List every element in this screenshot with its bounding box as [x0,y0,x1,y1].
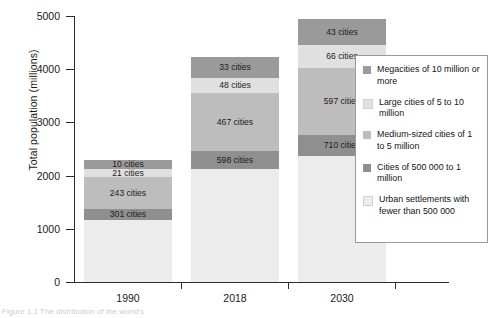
bar-segment: 10 cities [84,160,172,169]
segment-value-label: 21 cities [112,169,144,178]
y-tick-mark [66,16,74,17]
bar-segment: 598 cities [191,151,279,169]
bar-segment: 467 cities [191,93,279,151]
segment-value-label: 33 cities [219,63,251,72]
segment-value-label: 243 cities [110,189,146,198]
segment-value-label: 467 cities [217,118,253,127]
legend-label: Large cities of 5 to 10 million [379,97,480,121]
legend-swatch-icon [363,196,373,206]
segment-value-label: 66 cities [326,52,358,61]
legend-label: Urban settlements with fewer than 500 00… [379,194,480,218]
segment-value-label: 301 cities [110,210,146,219]
y-tick-label-1000: 1000 [0,223,60,235]
bar-segment [191,169,279,282]
y-tick-label-0: 0 [0,276,60,288]
y-tick-mark [66,69,74,70]
legend-item-2[interactable]: Medium-sized cities of 1 to 5 million [363,129,480,153]
bar-segment: 243 cities [84,177,172,209]
legend-swatch-icon [363,131,371,139]
y-tick-label-4000: 4000 [0,63,60,75]
legend-item-4[interactable]: Urban settlements with fewer than 500 00… [363,194,480,218]
figure-caption: Figure 1.1 The distribution of the world… [2,307,144,316]
bar-segment: 48 cities [191,78,279,93]
bar-2018: 598 cities467 cities48 cities33 cities [191,57,279,282]
y-axis-line [74,16,75,282]
legend-label: Medium-sized cities of 1 to 5 million [377,129,480,153]
y-tick-mark [66,282,74,283]
legend-label: Cities of 500 000 to 1 million [377,162,480,186]
legend-label: Megacities of 10 million or more [377,64,480,88]
x-tick-label-2030: 2030 [302,292,382,304]
segment-value-label: 598 cities [217,156,253,165]
chart-legend: Megacities of 10 million or moreLarge ci… [355,55,488,243]
legend-swatch-icon [363,66,371,74]
bar-segment: 33 cities [191,57,279,77]
segment-value-label: 10 cities [112,160,144,169]
bar-segment [84,220,172,282]
bar-segment: 21 cities [84,169,172,176]
x-axis-line [74,282,449,283]
x-tick-label-1990: 1990 [88,292,168,304]
bar-1990: 301 cities243 cities21 cities10 cities [84,160,172,282]
x-tick-mark [288,282,289,289]
y-tick-label-2000: 2000 [0,170,60,182]
x-tick-label-2018: 2018 [195,292,275,304]
legend-swatch-icon [363,99,373,109]
chart-canvas: Total population (millions) 500040003000… [0,0,493,318]
segment-value-label: 48 cities [219,81,251,90]
bar-segment: 301 cities [84,209,172,220]
legend-item-1[interactable]: Large cities of 5 to 10 million [363,97,480,121]
y-tick-label-3000: 3000 [0,116,60,128]
legend-item-0[interactable]: Megacities of 10 million or more [363,64,480,88]
legend-item-3[interactable]: Cities of 500 000 to 1 million [363,162,480,186]
legend-swatch-icon [363,164,371,172]
y-tick-mark [66,122,74,123]
x-tick-mark [181,282,182,289]
segment-value-label: 43 cities [326,28,358,37]
y-tick-mark [66,229,74,230]
y-tick-mark [66,176,74,177]
x-tick-mark [395,282,396,289]
bar-segment: 43 cities [298,19,386,46]
y-tick-label-5000: 5000 [0,10,60,22]
